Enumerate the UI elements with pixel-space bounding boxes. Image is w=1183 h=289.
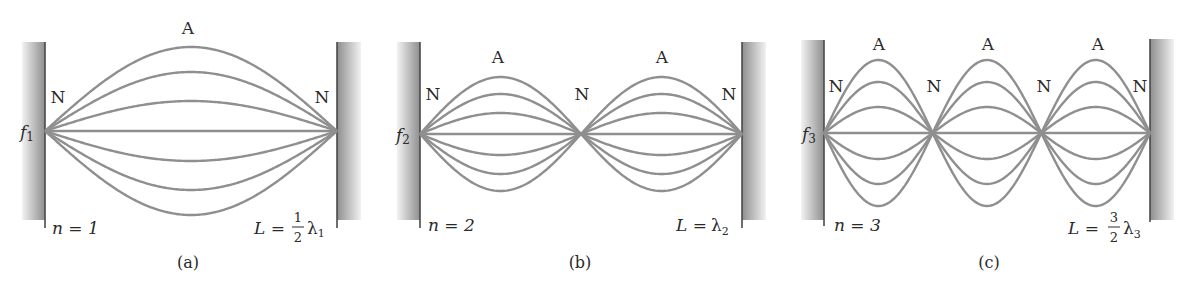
node-label: N xyxy=(829,76,844,96)
svg-text:2: 2 xyxy=(1110,230,1118,245)
node-label: N xyxy=(575,84,590,104)
length-formula: L = λ2 xyxy=(675,215,729,238)
svg-text:λ1: λ1 xyxy=(307,218,325,240)
panel-c: A A A N N N N f3 n = 3 L = 3 2 λ3 (c) xyxy=(800,34,1174,272)
antinode-label: A xyxy=(872,34,886,54)
antinode-label: A xyxy=(491,47,505,67)
svg-text:L =: L = xyxy=(253,218,285,238)
right-wall xyxy=(1150,39,1174,220)
length-formula: L = 1 2 λ1 xyxy=(253,210,325,245)
node-label: N xyxy=(1133,76,1148,96)
node-label: N xyxy=(426,84,441,104)
standing-waves-figure: A N N f1 n = 1 L = 1 2 λ1 (a) A A N N N … xyxy=(0,0,1183,289)
right-wall xyxy=(337,42,361,220)
panel-caption: (c) xyxy=(978,253,999,272)
right-wall xyxy=(742,42,766,220)
svg-text:L =: L = xyxy=(675,215,707,235)
node-label: N xyxy=(51,87,66,107)
svg-text:2: 2 xyxy=(294,230,302,245)
mode-number-label: n = 2 xyxy=(428,215,475,235)
panel-b: A A N N N f2 n = 2 L = λ2 (b) xyxy=(394,42,766,272)
svg-text:λ3: λ3 xyxy=(1123,218,1141,241)
antinode-label: A xyxy=(1091,34,1105,54)
string-modes xyxy=(824,60,1150,206)
node-label: N xyxy=(315,87,330,107)
antinode-label: A xyxy=(981,34,995,54)
string-modes xyxy=(45,47,337,215)
panel-a: A N N f1 n = 1 L = 1 2 λ1 (a) xyxy=(18,18,361,272)
mode-number-label: n = 1 xyxy=(52,218,99,238)
svg-text:L =: L = xyxy=(1067,218,1099,238)
panel-caption: (a) xyxy=(177,253,199,272)
antinode-label: A xyxy=(181,18,195,38)
node-label: N xyxy=(927,76,942,96)
svg-text:1: 1 xyxy=(294,210,302,225)
panel-caption: (b) xyxy=(569,253,592,272)
svg-text:λ2: λ2 xyxy=(711,215,729,238)
mode-number-label: n = 3 xyxy=(834,215,881,235)
node-label: N xyxy=(1037,76,1052,96)
length-formula: L = 3 2 λ3 xyxy=(1067,210,1141,245)
node-label: N xyxy=(722,84,737,104)
svg-text:3: 3 xyxy=(1110,210,1118,225)
antinode-label: A xyxy=(655,47,669,67)
